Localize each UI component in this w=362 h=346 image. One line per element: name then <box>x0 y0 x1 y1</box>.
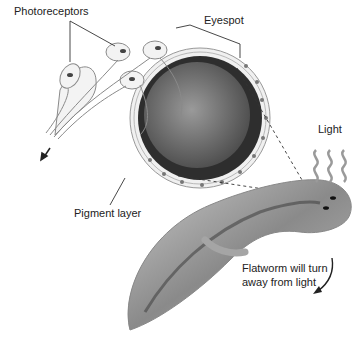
light-waves-icon <box>314 150 345 182</box>
diagram-canvas <box>0 0 362 346</box>
flatworm-illustration <box>128 180 351 330</box>
eyespot-illustration <box>130 48 270 188</box>
label-light: Light <box>318 123 342 135</box>
signal-arrow-icon <box>41 148 50 160</box>
label-eyespot: Eyespot <box>204 14 244 26</box>
label-pigment-layer: Pigment layer <box>74 207 141 219</box>
caption-line-2: away from light <box>242 276 316 288</box>
caption-line-1: Flatworm will turn <box>242 262 328 274</box>
label-photoreceptors: Photoreceptors <box>14 5 89 17</box>
